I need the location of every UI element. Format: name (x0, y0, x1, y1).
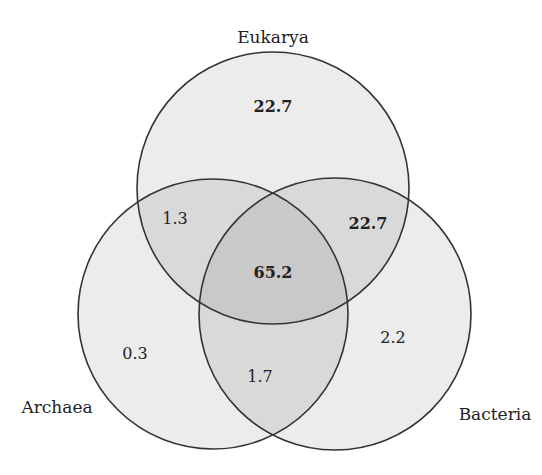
archaea-only-value: 0.3 (122, 344, 147, 363)
archaea-bacteria-value: 1.7 (247, 367, 272, 386)
eukarya-only-value: 22.7 (254, 97, 293, 116)
bacteria-only-value: 2.2 (380, 328, 405, 347)
eukarya-bacteria-value: 22.7 (349, 214, 388, 233)
eukarya-archaea-value: 1.3 (162, 209, 187, 228)
eukarya-label: Eukarya (237, 27, 309, 47)
venn-diagram: Eukarya Archaea Bacteria 22.7 1.3 22.7 6… (0, 0, 542, 475)
bacteria-label: Bacteria (459, 404, 532, 424)
all-three-value: 65.2 (254, 263, 293, 282)
archaea-label: Archaea (20, 397, 92, 417)
